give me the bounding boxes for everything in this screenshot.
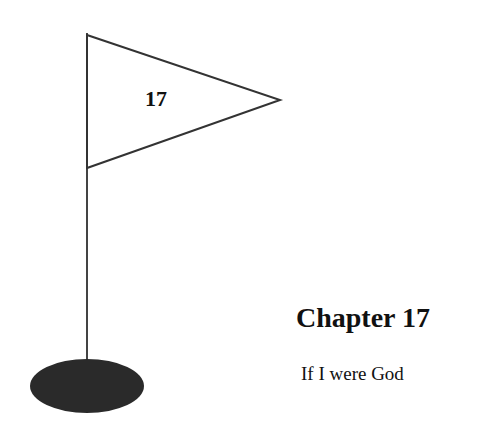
pennant-flag [87,35,280,168]
chapter-title: Chapter 17 [296,300,430,336]
chapter-subtitle: If I were God [301,361,404,387]
golf-hole-icon [30,359,144,413]
flag-number: 17 [145,85,167,113]
golf-flag-illustration [0,0,495,441]
